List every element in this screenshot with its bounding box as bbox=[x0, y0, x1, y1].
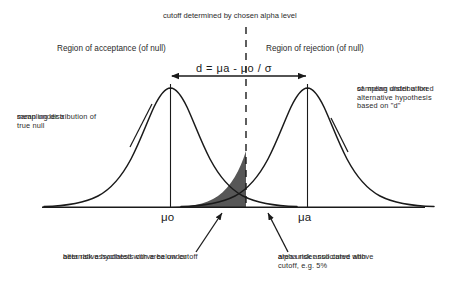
statistics-hypothesis-test-diagram: cutoff determined by chosen alpha level … bbox=[0, 0, 461, 296]
null-curve-label-line3: true null bbox=[17, 122, 64, 131]
alt-curve-leader-line bbox=[331, 118, 348, 152]
alt-curve-label-line4: based on "d" bbox=[357, 102, 434, 111]
beta-risk-shaded-area bbox=[160, 151, 246, 207]
alpha-risk-leader-arrow bbox=[268, 213, 288, 252]
alt-curve-label-group: sampling distribution of mean under a fi… bbox=[357, 85, 434, 111]
beta-risk-leader-arrow bbox=[196, 213, 222, 252]
null-curve-label-group: sampling distribution of mean under a tr… bbox=[17, 113, 64, 130]
mu-null-tick-label: μo bbox=[161, 211, 174, 223]
region-of-rejection-label: Region of rejection (of null) bbox=[266, 44, 364, 53]
effect-size-formula-label: d = μa - μo / σ bbox=[196, 62, 272, 74]
region-of-acceptance-label: Region of acceptance (of null) bbox=[57, 44, 166, 53]
beta-risk-annotation-line2: alternative hyothesis curve below cutoff bbox=[63, 253, 198, 262]
mu-alt-tick-label: μa bbox=[298, 211, 311, 223]
null-curve-leader-line bbox=[130, 104, 152, 147]
alpha-risk-annotation: alpha risk associated with area under nu… bbox=[278, 253, 374, 270]
cutoff-title-label: cutoff determined by chosen alpha level bbox=[163, 11, 297, 20]
beta-risk-annotation: beta risk associated with area under alt… bbox=[63, 253, 198, 262]
alpha-risk-annotation-line3: cutoff, e.g. 5% bbox=[278, 262, 374, 271]
